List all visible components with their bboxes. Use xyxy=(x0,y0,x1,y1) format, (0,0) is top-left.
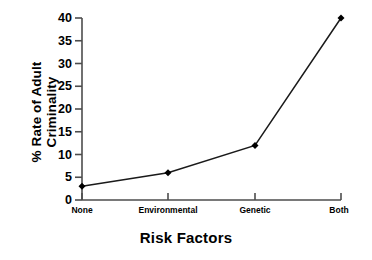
y-tick-label-5: 5 xyxy=(46,171,72,184)
x-axis-title: Risk Factors xyxy=(0,229,372,246)
y-tick-label-0: 0 xyxy=(46,194,72,207)
y-tick-label-10: 10 xyxy=(46,149,72,162)
y-tick-label-35: 35 xyxy=(46,35,72,48)
y-axis-ticks xyxy=(75,18,82,200)
x-tick-label-environmental: Environmental xyxy=(123,206,213,215)
y-tick-label-20: 20 xyxy=(46,103,72,116)
y-tick-label-30: 30 xyxy=(46,58,72,71)
data-point-none xyxy=(79,183,86,190)
data-series-line xyxy=(82,18,341,186)
chart-figure: % Rate of Adult Criminality xyxy=(0,0,372,260)
x-tick-label-genetic: Genetic xyxy=(219,206,291,215)
y-tick-label-15: 15 xyxy=(46,126,72,139)
data-point-environmental xyxy=(165,169,172,176)
x-axis-ticks xyxy=(82,193,341,200)
y-tick-label-40: 40 xyxy=(46,12,72,25)
data-point-markers xyxy=(79,15,345,190)
y-tick-label-25: 25 xyxy=(46,80,72,93)
x-tick-label-both: Both xyxy=(311,206,367,215)
x-tick-label-none: None xyxy=(52,206,112,215)
